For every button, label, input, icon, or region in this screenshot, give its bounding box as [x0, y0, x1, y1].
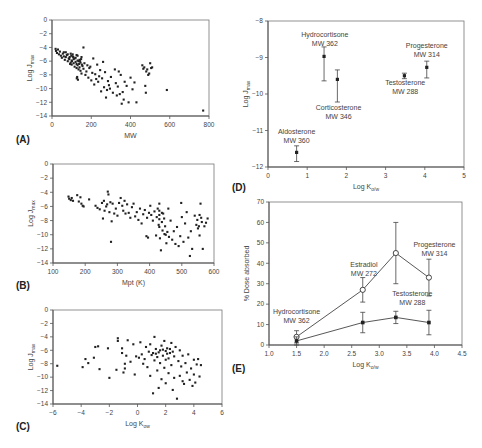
data-point [79, 60, 81, 62]
data-point [151, 354, 153, 356]
data-point [147, 237, 149, 239]
data-point [158, 214, 160, 216]
x-tick-label: −6 [49, 409, 57, 416]
filled-square-marker [427, 321, 431, 325]
data-point [182, 241, 184, 243]
data-point [203, 225, 205, 227]
data-point [149, 343, 151, 345]
data-point [191, 385, 193, 387]
y-tick-label: −9 [256, 54, 264, 61]
data-point [117, 86, 119, 88]
data-point [160, 378, 162, 380]
data-point [71, 60, 73, 62]
y-tick-label: −11 [252, 127, 263, 134]
panel-label-e: (E) [232, 363, 245, 374]
data-point [145, 92, 147, 94]
figure-canvas: 02004006008000−2−4−6−8−10−12−14MWLog Jma… [0, 0, 482, 448]
data-point [117, 337, 119, 339]
data-point [87, 77, 89, 79]
data-point [193, 359, 195, 361]
data-point [126, 203, 128, 205]
x-tick-label: 400 [144, 268, 155, 275]
data-point [161, 229, 163, 231]
x-tick-label: −2 [106, 409, 114, 416]
data-point [108, 211, 110, 213]
data-point [89, 66, 91, 68]
data-point [151, 66, 153, 68]
data-point [141, 64, 143, 66]
data-point [79, 196, 81, 198]
data-point [205, 222, 207, 224]
x-tick-label: 3.5 [402, 350, 411, 357]
data-point [156, 369, 158, 371]
data-point [107, 193, 109, 195]
data-point [199, 214, 201, 216]
data-point [129, 361, 131, 363]
data-point [67, 196, 69, 198]
data-point [55, 48, 57, 50]
data-point [80, 58, 82, 60]
data-point [135, 355, 137, 357]
data-point [168, 236, 170, 238]
data-point [165, 350, 167, 352]
compound-annotation: MW 288 [399, 299, 425, 306]
x-tick-label: 4.5 [457, 350, 466, 357]
data-point [199, 203, 201, 205]
data-point [142, 363, 144, 365]
data-point [170, 220, 172, 222]
data-point [194, 382, 196, 384]
data-point-hydrocortisone [322, 55, 325, 58]
y-tick-label: −8 [41, 217, 49, 224]
data-point [76, 77, 78, 79]
compound-annotation: Progesterone [406, 42, 448, 50]
data-point [141, 222, 143, 224]
data-point [103, 86, 105, 88]
data-point [152, 392, 154, 394]
y-tick-label: −4 [40, 44, 48, 51]
x-tick-label: 0 [266, 172, 270, 179]
data-point-aldosterone [295, 151, 298, 154]
panel-e-dose-absorbed: 1.01.52.02.53.03.54.04.5010203040506070L… [243, 198, 467, 370]
y-tick-label: −8 [256, 17, 264, 24]
data-point [153, 359, 155, 361]
x-tick-label: 1.5 [292, 350, 301, 357]
compound-annotation: Progesterone [413, 241, 455, 249]
data-point [121, 347, 123, 349]
data-point [110, 76, 112, 78]
x-tick-label: 1.0 [264, 350, 273, 357]
data-point [158, 224, 160, 226]
data-point [142, 213, 144, 215]
data-point [107, 347, 109, 349]
x-axis-label: Log Kow [125, 420, 150, 429]
data-point [112, 92, 114, 94]
plot-frame [53, 310, 222, 404]
data-point [115, 82, 117, 84]
data-point [178, 245, 180, 247]
data-point [116, 215, 118, 217]
data-point [80, 56, 82, 58]
data-point [138, 357, 140, 359]
x-tick-label: 6 [220, 409, 224, 416]
data-point [83, 205, 85, 207]
data-point [65, 51, 67, 53]
data-point [134, 373, 136, 375]
data-point [124, 363, 126, 365]
data-point [93, 83, 95, 85]
data-point [102, 61, 104, 63]
data-point [197, 227, 199, 229]
data-point [163, 367, 165, 369]
data-point [135, 101, 137, 103]
data-point [137, 219, 139, 221]
open-circle-marker [426, 275, 431, 280]
data-point [55, 50, 57, 52]
data-point [84, 74, 86, 76]
data-point [122, 210, 124, 212]
data-point [99, 208, 101, 210]
data-point [73, 62, 75, 64]
data-point [113, 213, 115, 215]
y-tick-label: −12 [37, 387, 48, 394]
data-point [166, 89, 168, 91]
data-point [98, 75, 100, 77]
data-point [101, 77, 103, 79]
filled-square-marker [394, 316, 398, 320]
